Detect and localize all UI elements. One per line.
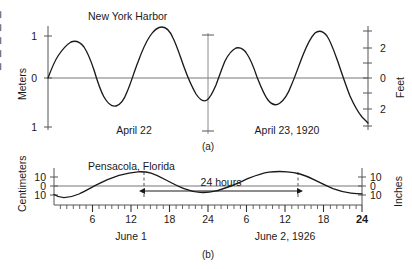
panel-a-ytick-left-top: 1 [31,30,37,42]
panel-a-ytick-left-mid: 0 [31,72,37,84]
panel-b-xtick-7: 18 [318,213,330,225]
panel-b-date-right: June 2, 1926 [255,230,316,242]
panel-a-ytick-left-bottom: 1 [31,121,37,133]
panel-a-ytick-right-mid: 0 [380,72,386,84]
panel-b-xtick-2: 12 [125,213,137,225]
tide-curves-figure: ▮▮▮▮▮ [0,0,412,269]
panel-a-title: New York Harbor [88,10,168,22]
figure-canvas: New York Harbor 1 0 1 2 0 2 Meters Feet … [0,0,412,269]
panel-b-xtick-3: 18 [164,213,176,225]
panel-b-ylabel-right: Inches [392,176,404,207]
panel-b-title: Pensacola, Florida [88,160,175,172]
panel-b-caption: (b) [202,249,214,260]
panel-b-xtick-1: 6 [90,213,96,225]
panel-a-date-right: April 23, 1920 [255,124,320,136]
panel-b-ytick-left-bottom: 10 [34,189,46,201]
panel-b-ylabel-left: Centimeters [16,155,28,212]
panel-b-xtick-5: 6 [244,213,250,225]
panel-a: New York Harbor 1 0 1 2 0 2 Meters Feet … [16,10,406,152]
panel-a-ylabel-right: Feet [394,77,406,98]
panel-b-xtick-8: 24 [356,213,369,225]
panel-b-xtick-6: 12 [279,213,291,225]
panel-a-ytick-right-top: 2 [380,42,386,54]
panel-a-ytick-right-bottom: 2 [380,103,386,115]
panel-a-date-left: April 22 [116,124,152,136]
panel-b-xtick-4: 24 [202,213,214,225]
panel-b-24hour-label: 24 hours [201,176,242,188]
page-edge-text-fragment: ▮▮▮▮▮ [0,8,8,123]
panel-b: Pensacola, Florida 10 0 10 10 0 10 Centi… [16,155,404,260]
panel-b-ytick-right-bottom: 10 [370,189,382,201]
panel-a-ylabel-left: Meters [16,68,28,100]
panel-a-caption: (a) [202,141,214,152]
panel-b-date-left: June 1 [115,230,147,242]
